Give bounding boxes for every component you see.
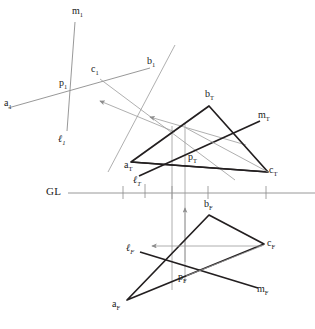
label-m1: m1 [72, 6, 83, 19]
aux-line-m-l [67, 22, 75, 131]
label-aF: aF [112, 299, 120, 312]
label-pT: pT [188, 152, 197, 165]
top-view [131, 106, 268, 176]
label-lF: ℓF [126, 243, 134, 256]
aux-line-abc [8, 68, 150, 108]
label-lT: ℓT [133, 175, 141, 188]
top-view-thin-ray [186, 128, 268, 172]
label-gl: GL [46, 186, 61, 196]
label-pF: pF [178, 272, 187, 285]
label-mF: mF [257, 284, 268, 297]
front-view-line-m [140, 252, 258, 288]
figure-canvas: m1 a1 p1 c1 b1 ℓ1 GL aT bT cT pT mT ℓT a… [0, 0, 315, 329]
label-a1: a1 [4, 98, 12, 111]
label-bT: bT [205, 89, 214, 102]
label-c1: c1 [91, 64, 99, 77]
front-view-thin-ray [186, 245, 264, 276]
label-cT: cT [269, 165, 277, 178]
projection-drawing [0, 0, 315, 329]
top-view-triangle [131, 106, 268, 172]
label-b1: b1 [147, 56, 155, 69]
label-aT: aT [124, 160, 132, 173]
front-view-triangle [127, 215, 264, 300]
ground-line-group [68, 184, 315, 199]
label-p1: p1 [59, 78, 67, 91]
front-view [127, 215, 264, 300]
label-l1: ℓ1 [58, 134, 65, 147]
label-bF: bF [204, 199, 213, 212]
label-cF: cF [267, 238, 275, 251]
label-mT: mT [258, 110, 270, 123]
aux-transfer-arrow-1 [100, 101, 175, 132]
